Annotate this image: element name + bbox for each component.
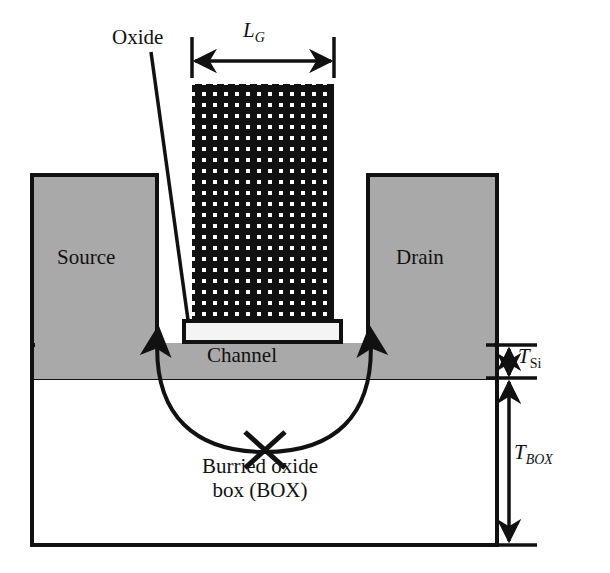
drain-label: Drain (396, 246, 444, 270)
gate-length-symbol-subscript: G (255, 30, 265, 45)
box-thickness-symbol-subscript: BOX (526, 452, 553, 467)
oxide-label: Oxide (112, 26, 163, 50)
box-thickness-symbol-base: T (514, 440, 526, 464)
gate-electrode (192, 84, 334, 322)
silicon-thickness-symbol: TSi (518, 344, 541, 372)
channel-label: Channel (207, 344, 277, 368)
soi-mosfet-cross-section-diagram: Oxide Source Drain Channel Burried oxide… (0, 0, 610, 573)
source-label: Source (57, 246, 115, 270)
box-thickness-symbol: TBOX (514, 440, 553, 468)
gate-length-symbol-base: L (243, 18, 255, 42)
silicon-thickness-symbol-subscript: Si (530, 356, 542, 371)
buried-oxide-box-label-line2: box (BOX) (160, 479, 360, 503)
buried-oxide-box-label-line1: Burried oxide (160, 455, 360, 479)
silicon-thickness-symbol-base: T (518, 344, 530, 368)
buried-oxide-box-label: Burried oxide box (BOX) (160, 455, 360, 502)
gate-length-symbol: LG (243, 18, 265, 46)
gate-oxide-layer (184, 321, 341, 342)
